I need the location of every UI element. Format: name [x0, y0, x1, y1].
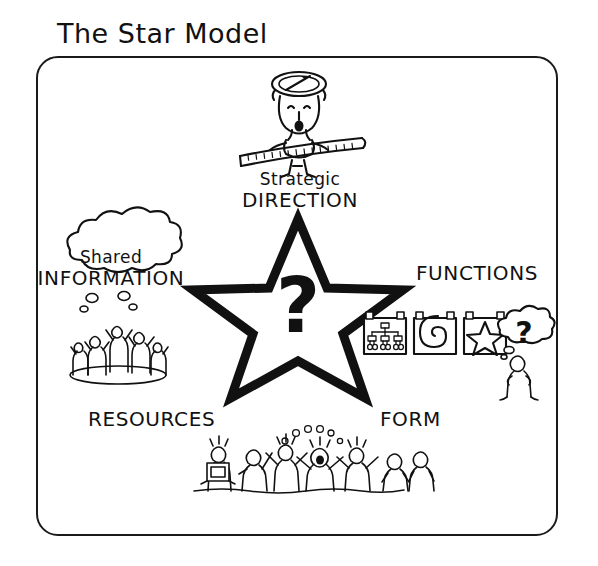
node-label-information: Shared INFORMATION — [30, 248, 192, 289]
form-crowd-illustration — [194, 426, 434, 493]
direction-label-line1: Strategic — [232, 170, 368, 189]
node-label-resources: RESOURCES — [88, 408, 228, 430]
information-label-line2: INFORMATION — [30, 267, 192, 289]
central-star — [193, 219, 403, 398]
direction-label-line2: DIRECTION — [232, 189, 368, 211]
svg-text:?: ? — [515, 315, 532, 350]
node-label-direction: Strategic DIRECTION — [232, 170, 368, 211]
direction-figure-illustration — [240, 72, 365, 177]
node-label-functions: FUNCTIONS — [416, 262, 552, 284]
node-label-form: FORM — [380, 408, 460, 430]
information-label-line1: Shared — [30, 248, 192, 267]
functions-posters-illustration: ? — [364, 306, 555, 400]
information-cloud-illustration — [67, 207, 181, 384]
